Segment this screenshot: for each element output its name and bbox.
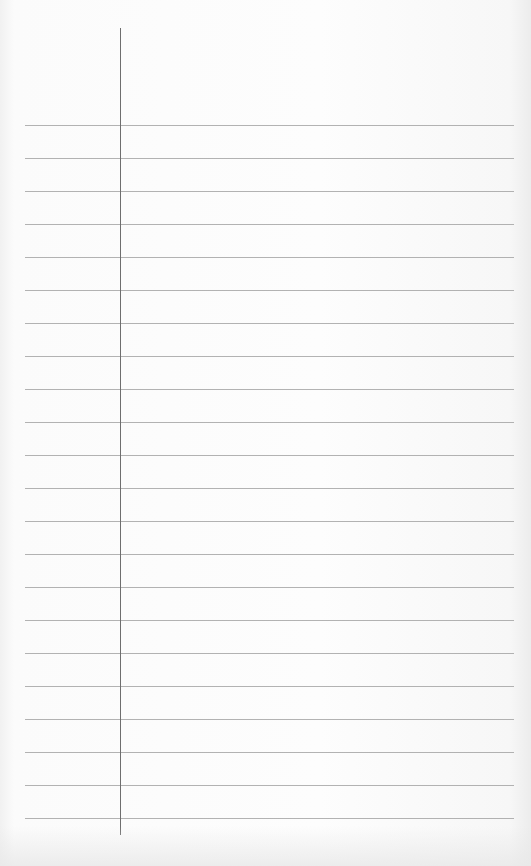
ruled-line — [25, 323, 514, 324]
lined-paper-sheet — [0, 0, 531, 866]
ruled-line — [25, 521, 514, 522]
ruled-line — [25, 488, 514, 489]
ruled-line — [25, 554, 514, 555]
ruled-line — [25, 785, 514, 786]
ruled-line — [25, 686, 514, 687]
vertical-margin-line — [120, 28, 121, 835]
ruled-line — [25, 587, 514, 588]
ruled-line — [25, 455, 514, 456]
ruled-line — [25, 752, 514, 753]
ruled-line — [25, 290, 514, 291]
ruled-line — [25, 818, 514, 819]
ruled-line — [25, 620, 514, 621]
ruled-line — [25, 719, 514, 720]
ruled-line — [25, 224, 514, 225]
ruled-line — [25, 389, 514, 390]
ruled-line — [25, 422, 514, 423]
ruled-line — [25, 158, 514, 159]
ruled-line — [25, 257, 514, 258]
ruled-line — [25, 653, 514, 654]
ruled-line — [25, 125, 514, 126]
ruled-line — [25, 191, 514, 192]
ruled-line — [25, 356, 514, 357]
